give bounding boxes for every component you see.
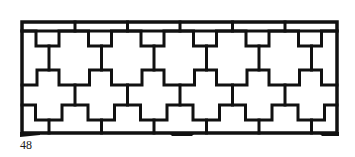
figure-caption-number: 48	[20, 138, 32, 152]
lattice-lines	[22, 22, 337, 133]
band-1-stepped-line	[22, 31, 337, 46]
bottom-foot-right	[318, 132, 339, 136]
outer-frame	[22, 22, 337, 133]
band-2-stepped-line	[22, 70, 337, 85]
band-3-stepped-line	[22, 105, 337, 120]
bottom-foot-center	[168, 132, 196, 136]
fretwork-lattice-panel	[0, 0, 355, 157]
bottom-foot-left	[20, 132, 40, 137]
